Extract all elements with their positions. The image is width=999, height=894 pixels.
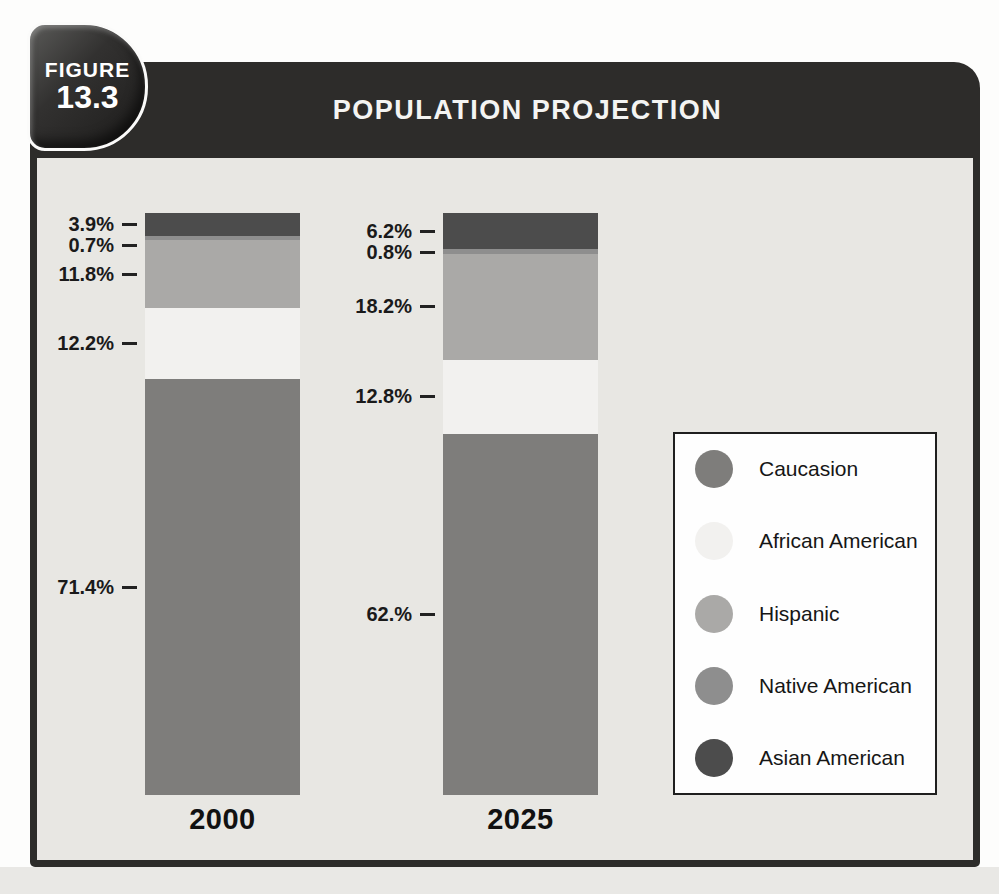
legend-item: Native American	[675, 667, 935, 705]
value-label-text: 71.4%	[57, 576, 114, 599]
value-label-text: 12.8%	[355, 385, 412, 408]
figure-badge-word: FIGURE	[45, 59, 130, 81]
bar-segment-caucasian	[443, 434, 598, 795]
figure-box: POPULATION PROJECTION CaucasionAfrican A…	[30, 62, 980, 867]
legend-label: Hispanic	[759, 602, 840, 626]
bar-segment-hispanic	[443, 254, 598, 360]
value-label: 62.%	[366, 604, 435, 626]
legend-label: Asian American	[759, 746, 905, 770]
tick-mark	[122, 586, 137, 589]
bar-segment-african	[443, 360, 598, 434]
legend-swatch-circle	[695, 667, 733, 705]
bar-segment-asian	[443, 213, 598, 249]
stacked-bar-2025	[443, 213, 598, 795]
tick-mark	[420, 305, 435, 308]
tick-mark	[420, 395, 435, 398]
figure-header: POPULATION PROJECTION	[30, 62, 980, 158]
value-label-text: 18.2%	[355, 295, 412, 318]
tick-mark	[122, 244, 137, 247]
legend-swatch-circle	[695, 522, 733, 560]
textbook-page: FIGURE 13.3 POPULATION PROJECTION Caucas…	[0, 0, 999, 894]
value-label: 18.2%	[355, 296, 435, 318]
bar-segment-hispanic	[145, 240, 300, 309]
category-label-2025: 2025	[443, 803, 598, 837]
tick-mark	[420, 251, 435, 254]
value-label-text: 0.7%	[68, 234, 114, 257]
stacked-bar-2000	[145, 213, 300, 795]
legend-swatch-circle	[695, 595, 733, 633]
legend-swatch-circle	[695, 450, 733, 488]
bar-segment-asian	[145, 213, 300, 236]
bar-segment-african	[145, 308, 300, 379]
tick-mark	[420, 230, 435, 233]
value-label-text: 62.%	[366, 603, 412, 626]
legend-item: Asian American	[675, 739, 935, 777]
figure-badge: FIGURE 13.3	[27, 22, 148, 151]
value-label: 12.2%	[57, 333, 137, 355]
chart-area: CaucasionAfrican AmericanHispanicNative …	[37, 158, 973, 860]
value-label: 6.2%	[366, 220, 435, 242]
legend-swatch-circle	[695, 739, 733, 777]
value-label-text: 6.2%	[366, 220, 412, 243]
value-label: 3.9%	[68, 213, 137, 235]
value-label-text: 0.8%	[366, 241, 412, 264]
tick-mark	[122, 342, 137, 345]
tick-mark	[122, 223, 137, 226]
legend-item: African American	[675, 522, 935, 560]
value-label-text: 11.8%	[58, 263, 114, 286]
bar-segment-caucasian	[145, 379, 300, 795]
tick-mark	[420, 613, 435, 616]
figure-title: POPULATION PROJECTION	[333, 95, 723, 126]
value-label: 71.4%	[57, 576, 137, 598]
legend-item: Hispanic	[675, 595, 935, 633]
legend-label: Caucasion	[759, 457, 858, 481]
legend-label: Native American	[759, 674, 912, 698]
page-margin-bottom	[0, 867, 999, 894]
figure-badge-number: 13.3	[56, 81, 118, 115]
legend-item: Caucasion	[675, 450, 935, 488]
value-label-text: 12.2%	[57, 332, 114, 355]
value-label: 12.8%	[355, 386, 435, 408]
tick-mark	[122, 273, 137, 276]
value-label: 11.8%	[58, 263, 137, 285]
value-label: 0.8%	[366, 241, 435, 263]
value-label: 0.7%	[68, 234, 137, 256]
category-label-2000: 2000	[145, 803, 300, 837]
legend-box: CaucasionAfrican AmericanHispanicNative …	[673, 432, 937, 795]
value-label-text: 3.9%	[68, 213, 114, 236]
legend-label: African American	[759, 529, 918, 553]
